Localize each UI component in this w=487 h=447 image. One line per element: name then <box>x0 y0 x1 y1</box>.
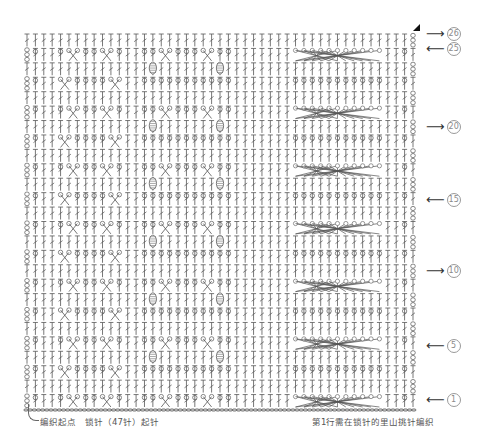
row-marker-26: ⟶26 <box>426 26 461 41</box>
row-marker-15: ⟵15 <box>426 192 461 207</box>
arrow-left-icon: ⟵ <box>426 192 444 207</box>
end-marker-icon <box>413 24 420 31</box>
arrow-left-icon: ⟵ <box>426 41 444 56</box>
row1-note-caption: 第1行需在锁针的里山挑针编织 <box>312 415 434 427</box>
arrow-right-icon: ⟶ <box>426 263 444 278</box>
arrow-left-icon: ⟵ <box>426 392 444 407</box>
arrow-right-icon: ⟶ <box>426 26 444 41</box>
row-marker-5: ⟵5 <box>426 338 461 353</box>
row-number-badge: 10 <box>447 264 461 278</box>
row-marker-1: ⟵1 <box>426 392 461 407</box>
start-caption: 编织起点 锁针（47针）起针 <box>40 415 159 427</box>
row-number-badge: 15 <box>447 193 461 207</box>
arrow-left-icon: ⟵ <box>426 338 444 353</box>
row-number-badge: 25 <box>447 42 461 56</box>
crochet-chart <box>0 0 487 447</box>
arrow-right-icon: ⟶ <box>426 119 444 134</box>
row-marker-20: ⟶20 <box>426 119 461 134</box>
row-number-badge: 1 <box>447 393 461 407</box>
row-marker-25: ⟵25 <box>426 41 461 56</box>
start-point-mark <box>28 404 39 421</box>
row-marker-10: ⟶10 <box>426 263 461 278</box>
row-number-badge: 5 <box>447 339 461 353</box>
row-number-badge: 20 <box>447 120 461 134</box>
row-number-badge: 26 <box>447 27 461 41</box>
